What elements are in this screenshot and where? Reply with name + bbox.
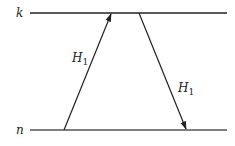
transition-down-label: H1 bbox=[177, 81, 194, 97]
transition-up-arrow bbox=[64, 14, 111, 130]
diagram-svg: k n H1 H1 bbox=[0, 0, 235, 146]
energy-level-diagram: k n H1 H1 bbox=[0, 0, 235, 146]
transition-down-arrow bbox=[139, 13, 186, 129]
level-n-label: n bbox=[16, 123, 24, 137]
transition-up-label: H1 bbox=[71, 51, 88, 67]
level-k-label: k bbox=[16, 6, 23, 20]
